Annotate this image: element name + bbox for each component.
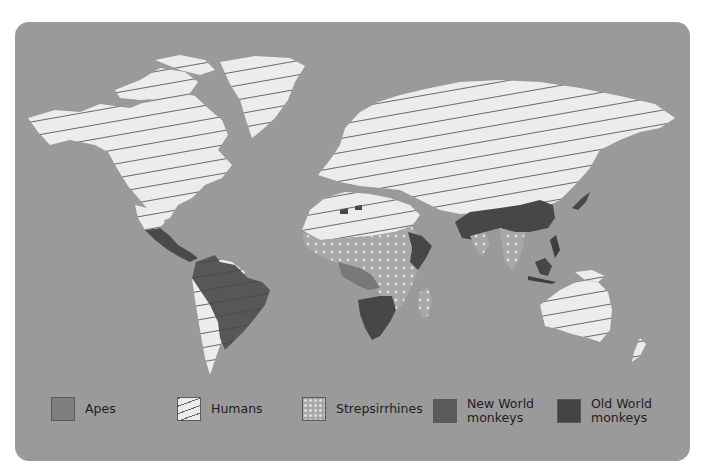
legend-item-new-world-monkeys: New World monkeys (433, 397, 534, 425)
legend-label-humans: Humans (211, 402, 263, 416)
world-map (15, 22, 690, 461)
region-new-guinea (575, 270, 605, 282)
region-new-zealand (632, 338, 646, 362)
strepsirrhines-swatch-icon (302, 397, 326, 421)
legend-item-apes: Apes (51, 397, 116, 421)
region-south-america (192, 255, 270, 375)
old-world-monkeys-swatch-icon (557, 399, 581, 423)
legend-item-old-world-monkeys: Old World monkeys (557, 397, 652, 425)
region-central-america (145, 228, 198, 262)
legend-item-strepsirrhines: Strepsirrhines (302, 397, 423, 421)
region-north-america (28, 55, 232, 222)
legend-label-old-world-monkeys: Old World monkeys (591, 397, 652, 425)
humans-swatch-icon (177, 397, 201, 421)
new-world-monkeys-swatch-icon (433, 399, 457, 423)
region-eurasia (318, 80, 675, 214)
map-panel: Apes Humans Strepsirrhines New World mon… (15, 22, 690, 461)
apes-swatch-icon (51, 397, 75, 421)
legend-label-new-world-monkeys: New World monkeys (467, 397, 534, 425)
region-greenland (220, 56, 305, 138)
legend-label-strepsirrhines: Strepsirrhines (336, 402, 423, 416)
legend-label-apes: Apes (85, 402, 116, 416)
region-madagascar (418, 288, 432, 318)
legend-item-humans: Humans (177, 397, 263, 421)
region-australia (540, 280, 612, 342)
